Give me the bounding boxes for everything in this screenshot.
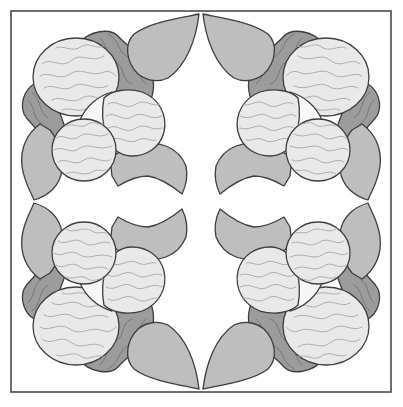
quilt-block-canvas bbox=[0, 0, 403, 407]
